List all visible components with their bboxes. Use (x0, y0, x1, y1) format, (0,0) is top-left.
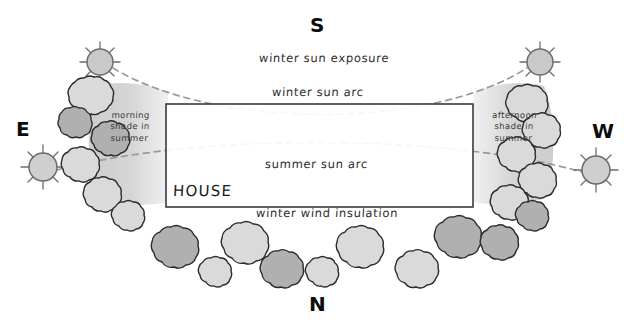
winter-sunrise-sun (80, 42, 120, 82)
compass-label-south: S (310, 13, 324, 38)
morning-shade-line-2: shade in (101, 121, 160, 132)
shrub-north-4 (260, 250, 303, 288)
morning-shade-line-3: summer (100, 133, 159, 144)
shrub-north-8 (434, 216, 481, 258)
summer-sunrise-sun (21, 145, 65, 189)
winter-sun-exposure-label: winter sun exposure (259, 51, 390, 65)
afternoon-shade-line-1: afternoon (483, 110, 546, 121)
shrub-east-2 (58, 107, 92, 138)
shrub-north-3 (221, 222, 268, 264)
summer-sun-arc-label: summer sun arc (265, 157, 369, 171)
winter-sunset-sun (520, 42, 560, 82)
winter-wind-insulation-label: winter wind insulation (256, 206, 399, 220)
morning-shade-line-1: morning (101, 110, 160, 121)
shrub-north-6 (336, 226, 383, 268)
shrub-north-7 (395, 250, 438, 288)
afternoon-shade-line-3: summer (482, 133, 545, 144)
compass-label-north: N (309, 292, 326, 317)
compass-label-east: E (16, 117, 30, 142)
shrub-north-1 (151, 226, 198, 268)
shrub-east-4 (61, 147, 99, 182)
house-label: HOUSE (173, 182, 233, 201)
shrub-north-5 (305, 257, 338, 287)
shrub-north-2 (198, 257, 231, 287)
shrub-east-6 (111, 201, 144, 231)
summer-sunset-sun (574, 148, 618, 192)
afternoon-shade-label: afternoon shade in summer (482, 110, 546, 144)
winter-sun-arc-label: winter sun arc (272, 85, 364, 99)
compass-label-west: W (592, 119, 614, 144)
shrub-west-6 (515, 201, 548, 231)
diagram-canvas: S E W N winter sun exposure winter sun a… (0, 0, 642, 329)
shrub-north-9 (480, 225, 518, 260)
morning-shade-label: morning shade in summer (100, 110, 160, 144)
afternoon-shade-line-2: shade in (483, 121, 546, 132)
